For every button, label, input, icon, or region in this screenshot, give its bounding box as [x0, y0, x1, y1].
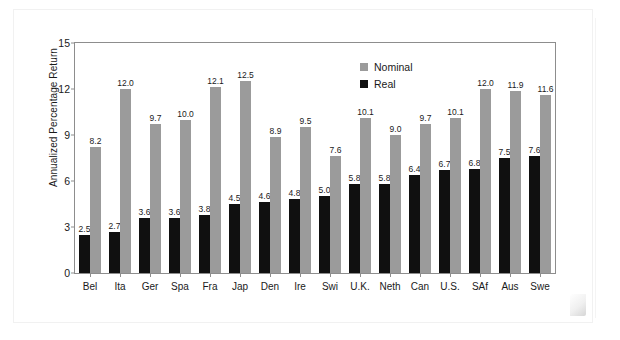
bar-group: 2.58.2	[75, 147, 105, 273]
bar-value-label: 9.0	[390, 124, 402, 134]
x-axis-tick-mark	[210, 273, 211, 277]
bar-value-label: 7.5	[499, 147, 511, 157]
legend-item-real: Real	[360, 78, 413, 90]
x-axis-tick-label: Can	[411, 281, 429, 292]
x-axis-tick-label: Neth	[379, 281, 400, 292]
bar-group: 5.89.0	[375, 135, 405, 273]
bar-value-label: 5.8	[379, 173, 391, 183]
bar-chart: Annualized Percentage Return 036912152.5…	[36, 26, 576, 316]
page-curl-decoration	[570, 294, 586, 316]
bar-nominal[interactable]: 10.1	[360, 118, 371, 273]
bar-real[interactable]: 6.4	[409, 175, 420, 273]
bar-value-label: 12.0	[477, 78, 494, 88]
bar-group: 4.512.5	[225, 81, 255, 273]
bar-real[interactable]: 5.0	[319, 196, 330, 273]
x-axis-tick-mark	[420, 273, 421, 277]
bar-value-label: 2.7	[109, 221, 121, 231]
bar-group: 5.810.1	[345, 118, 375, 273]
x-axis-tick-mark	[240, 273, 241, 277]
bar-group: 6.812.0	[465, 89, 495, 273]
bar-value-label: 10.1	[357, 107, 374, 117]
bar-real[interactable]: 5.8	[379, 184, 390, 273]
x-axis-tick-label: Swi	[322, 281, 338, 292]
bar-real[interactable]: 5.8	[349, 184, 360, 273]
y-axis-tick-mark	[71, 135, 75, 136]
bar-value-label: 6.8	[469, 158, 481, 168]
legend-swatch-real-icon	[360, 80, 368, 88]
page-right-edge	[595, 18, 596, 318]
bar-value-label: 8.9	[270, 126, 282, 136]
x-axis-tick-label: Ger	[142, 281, 159, 292]
bar-value-label: 12.0	[117, 78, 134, 88]
bar-nominal[interactable]: 12.0	[480, 89, 491, 273]
x-axis-tick-label: Spa	[171, 281, 189, 292]
bar-value-label: 6.4	[409, 164, 421, 174]
bar-value-label: 5.0	[319, 185, 331, 195]
paper-sheet: Annualized Percentage Return 036912152.5…	[14, 10, 592, 322]
bar-group: 7.511.9	[495, 91, 525, 273]
bar-real[interactable]: 7.6	[529, 156, 540, 273]
bar-nominal[interactable]: 8.2	[90, 147, 101, 273]
bar-real[interactable]: 4.6	[259, 202, 270, 273]
x-axis-tick-mark	[540, 273, 541, 277]
bar-real[interactable]: 2.7	[109, 232, 120, 273]
bar-value-label: 5.8	[349, 173, 361, 183]
bar-value-label: 10.0	[177, 109, 194, 119]
bar-nominal[interactable]: 9.7	[420, 124, 431, 273]
bar-value-label: 7.6	[529, 145, 541, 155]
bar-real[interactable]: 4.5	[229, 204, 240, 273]
bar-group: 4.68.9	[255, 137, 285, 273]
bar-group: 2.712.0	[105, 89, 135, 273]
bar-value-label: 9.7	[150, 113, 162, 123]
x-axis-tick-mark	[390, 273, 391, 277]
bar-value-label: 11.9	[508, 80, 524, 90]
bar-nominal[interactable]: 10.1	[450, 118, 461, 273]
bar-nominal[interactable]: 12.5	[240, 81, 251, 273]
bar-value-label: 3.8	[199, 204, 211, 214]
bar-nominal[interactable]: 7.6	[330, 156, 341, 273]
plot-area: 036912152.58.2Bel2.712.0Ita3.69.7Ger3.61…	[74, 42, 556, 274]
bar-nominal[interactable]: 9.0	[390, 135, 401, 273]
bar-nominal[interactable]: 9.7	[150, 124, 161, 273]
x-axis-tick-mark	[510, 273, 511, 277]
bar-group: 6.710.1	[435, 118, 465, 273]
bar-group: 3.69.7	[135, 124, 165, 273]
bar-value-label: 3.6	[169, 207, 181, 217]
bar-real[interactable]: 6.8	[469, 169, 480, 273]
bar-nominal[interactable]: 9.5	[300, 127, 311, 273]
x-axis-tick-label: Jap	[232, 281, 248, 292]
x-axis-tick-mark	[270, 273, 271, 277]
bar-nominal[interactable]: 11.9	[510, 91, 521, 273]
x-axis-tick-label: U.K.	[350, 281, 369, 292]
x-axis-tick-label: Swe	[530, 281, 549, 292]
bar-group: 3.812.1	[195, 87, 225, 273]
bar-group: 3.610.0	[165, 120, 195, 273]
bar-real[interactable]: 6.7	[439, 170, 450, 273]
bar-group: 6.49.7	[405, 124, 435, 273]
bar-real[interactable]: 3.6	[169, 218, 180, 273]
bar-real[interactable]: 2.5	[79, 235, 90, 273]
x-axis-tick-label: Ita	[114, 281, 125, 292]
y-axis-tick-mark	[71, 43, 75, 44]
bar-group: 7.611.6	[525, 95, 555, 273]
bar-real[interactable]: 3.6	[139, 218, 150, 273]
bar-nominal[interactable]: 11.6	[540, 95, 551, 273]
bar-real[interactable]: 3.8	[199, 215, 210, 273]
bar-real[interactable]: 7.5	[499, 158, 510, 273]
x-axis-tick-mark	[480, 273, 481, 277]
bar-value-label: 8.2	[90, 136, 102, 146]
x-axis-tick-mark	[150, 273, 151, 277]
bar-nominal[interactable]: 8.9	[270, 137, 281, 273]
bar-nominal[interactable]: 10.0	[180, 120, 191, 273]
legend-item-nominal: Nominal	[360, 61, 413, 73]
bar-real[interactable]: 4.8	[289, 199, 300, 273]
x-axis-tick-label: Den	[261, 281, 279, 292]
chart-legend: Nominal Real	[360, 61, 413, 95]
x-axis-tick-mark	[300, 273, 301, 277]
bar-value-label: 3.6	[139, 207, 151, 217]
bar-nominal[interactable]: 12.0	[120, 89, 131, 273]
bar-nominal[interactable]: 12.1	[210, 87, 221, 273]
bar-value-label: 4.5	[229, 193, 241, 203]
x-axis-tick-label: SAf	[472, 281, 488, 292]
bar-value-label: 7.6	[330, 145, 342, 155]
